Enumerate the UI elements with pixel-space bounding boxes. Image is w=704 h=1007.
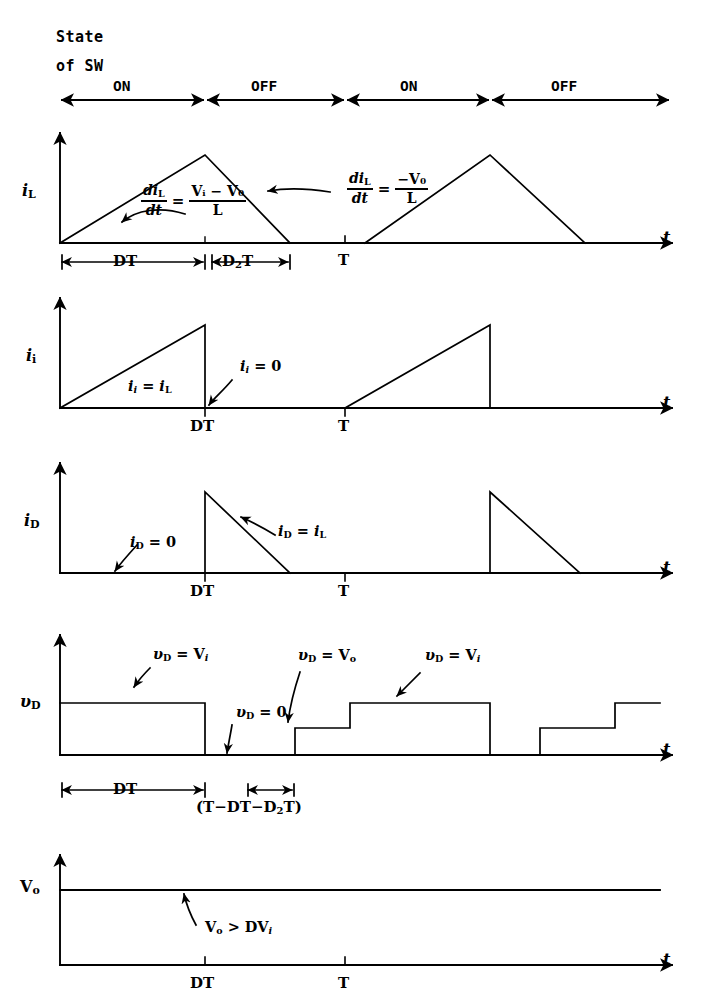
plot-output-voltage <box>60 855 672 965</box>
annotation-vd-equals-vo: υD = Vo <box>298 646 356 664</box>
equation-di-dt-rise: diL dt = Vᵢ − V₀ L <box>139 183 248 218</box>
dimension-row-2 <box>62 783 294 797</box>
x-axis-label-t-2: t <box>663 393 670 412</box>
derivative-denominator: dt <box>141 200 167 218</box>
switch-state-off-1: OFF <box>251 78 277 94</box>
voltage-numerator: Vᵢ − V₀ <box>189 184 246 200</box>
tick-label-T-plot5: T <box>338 974 349 992</box>
tick-label-T-plot2: T <box>338 417 349 435</box>
derivative-denominator-2: dt <box>347 188 373 206</box>
plot-diode-current <box>60 463 672 581</box>
leader-vo-greater <box>184 894 196 925</box>
annotation-id-equals-il: iD = iL <box>278 522 326 540</box>
y-axis-label-diode-current: iD <box>24 511 40 531</box>
figure-title-line-1: State <box>56 28 104 46</box>
y-axis-label-inductor-current: iL <box>22 181 36 201</box>
x-axis-label-t-4: t <box>663 740 670 759</box>
plot-diode-voltage <box>60 635 672 755</box>
dimension-label-DT-1: DT <box>113 252 137 270</box>
annotation-id-equals-zero: iD = 0 <box>130 533 176 551</box>
leader-vd-vi-1 <box>134 668 150 687</box>
leader-vd-vo <box>288 672 300 722</box>
figure-title-line-2: of SW <box>56 57 104 75</box>
voltage-denominator-2: L <box>395 188 428 206</box>
y-axis-label-diode-voltage: υD <box>20 692 41 712</box>
annotation-vd-equals-vi-1: υD = Vi <box>153 645 208 663</box>
voltage-numerator-2: −V₀ <box>395 172 428 188</box>
dimension-label-remainder: (T−DT−D2T) <box>196 798 302 816</box>
leader-vd-vi-2 <box>397 673 420 696</box>
derivative-numerator-2: diL <box>347 171 373 188</box>
dimension-row-1 <box>62 255 290 269</box>
tick-label-T-plot3: T <box>338 582 349 600</box>
switch-state-on-2: ON <box>400 78 417 94</box>
y-label-subscript: L <box>28 188 36 201</box>
dimension-label-D2T: D2T <box>222 252 253 270</box>
tick-label-T-plot1: T <box>338 251 349 269</box>
x-axis-label-t-5: t <box>663 950 670 969</box>
annotation-vd-equals-vi-2: υD = Vi <box>425 646 480 664</box>
equation-di-dt-fall: diL dt = −V₀ L <box>345 171 430 206</box>
tick-label-DT-plot5: DT <box>190 974 214 992</box>
switch-state-off-2: OFF <box>551 78 577 94</box>
dimension-label-DT-2: DT <box>113 780 137 798</box>
annotation-vo-greater-dvi: Vo > DVi <box>205 918 272 936</box>
y-axis-label-output-voltage: Vo <box>20 877 40 897</box>
figure-canvas: State of SW ON OFF ON OFF iL diL dt = Vᵢ… <box>0 0 704 1007</box>
voltage-denominator: L <box>189 200 246 218</box>
plot-input-current <box>60 298 672 416</box>
annotation-vd-equals-zero: υD = 0 <box>236 703 287 721</box>
tick-label-DT-plot3: DT <box>190 582 214 600</box>
y-axis-label-input-current: ii <box>26 346 36 366</box>
leader-ii-zero <box>209 380 232 405</box>
annotation-ii-equals-zero: ii = 0 <box>240 357 281 375</box>
equals-sign-2: = <box>378 180 391 198</box>
equals-sign: = <box>172 192 185 210</box>
x-axis-label-t-3: t <box>663 558 670 577</box>
voltage-fraction-right: Vᵢ − V₀ L <box>189 184 246 218</box>
switch-state-on-1: ON <box>113 78 130 94</box>
waveform-vector-layer <box>0 0 704 1007</box>
leader-vd-zero <box>227 725 232 753</box>
derivative-numerator: diL <box>141 183 167 200</box>
voltage-fraction-right-2: −V₀ L <box>395 172 428 206</box>
annotation-ii-equals-il: ii = iL <box>128 377 172 395</box>
leader-di-dt-fall <box>268 189 330 192</box>
derivative-fraction-left: diL dt <box>141 183 167 218</box>
derivative-fraction-left-2: diL dt <box>347 171 373 206</box>
tick-label-DT-plot2: DT <box>190 417 214 435</box>
x-axis-label-t-1: t <box>663 228 670 247</box>
